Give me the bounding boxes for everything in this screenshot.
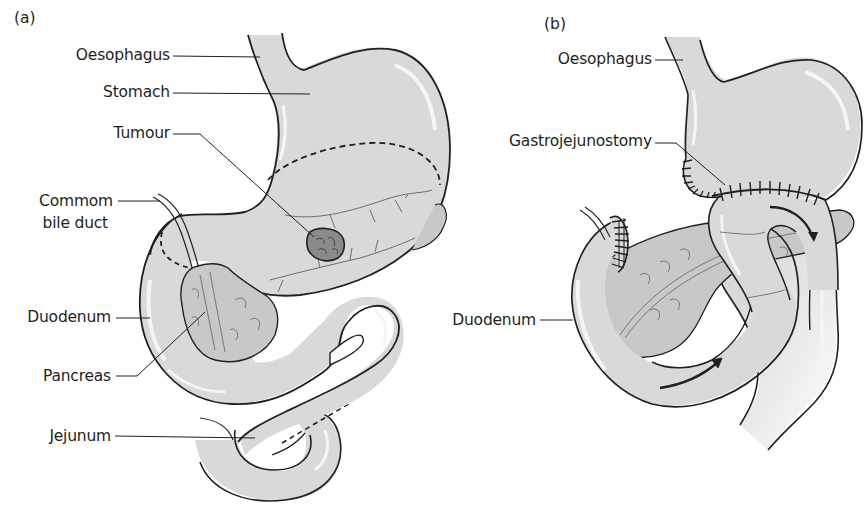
label-gastrojejunostomy: Gastrojejunostomy [509, 132, 652, 150]
anatomy-illustration [0, 0, 867, 513]
label-duodenum-b: Duodenum [452, 311, 536, 329]
label-duodenum-a: Duodenum [27, 308, 111, 326]
label-tumour: Tumour [113, 124, 170, 142]
label-pancreas: Pancreas [43, 367, 111, 385]
tumour-shape [307, 228, 344, 260]
label-oesophagus-a: Oesophagus [76, 46, 170, 64]
label-jejunum: Jejunum [49, 427, 111, 445]
label-oesophagus-b: Oesophagus [558, 50, 652, 68]
panel-a-illustration [115, 33, 450, 501]
stomach-remnant-shape [665, 37, 862, 205]
label-common-bile-duct-line2: bile duct [43, 214, 108, 232]
label-common-bile-duct-line1: Commom [39, 192, 113, 210]
panel-b-tag: (b) [544, 15, 566, 33]
stomach-shape [150, 33, 450, 296]
panel-a-tag: (a) [14, 9, 36, 27]
whipple-procedure-diagram: (a) (b) Oesophagus Stomach Tumour Commom… [0, 0, 867, 513]
label-stomach: Stomach [103, 83, 170, 101]
panel-b-illustration [540, 37, 862, 450]
